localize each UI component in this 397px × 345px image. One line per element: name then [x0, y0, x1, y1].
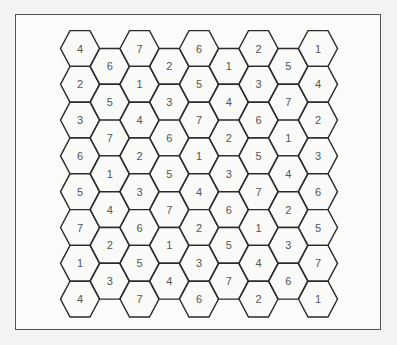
hex-grid: 4236571465714237142365723657146571423614… [0, 0, 397, 345]
hex-number: 4 [77, 293, 83, 305]
hex-number: 1 [226, 60, 232, 72]
hex-number: 4 [315, 78, 321, 90]
hex-number: 1 [315, 43, 321, 55]
hex-number: 5 [315, 222, 321, 234]
hex-number: 5 [226, 239, 232, 251]
hex-number: 7 [107, 132, 113, 144]
hex-number: 5 [285, 60, 291, 72]
hex-number: 4 [196, 186, 202, 198]
hex-number: 7 [136, 293, 142, 305]
hex-number: 2 [136, 150, 142, 162]
hex-number: 2 [226, 132, 232, 144]
hex-number: 6 [255, 114, 261, 126]
hex-number: 6 [285, 275, 291, 287]
hex-number: 1 [315, 293, 321, 305]
hex-number: 7 [226, 275, 232, 287]
hex-number: 4 [107, 204, 113, 216]
hex-number: 7 [77, 222, 83, 234]
hex-number: 3 [315, 150, 321, 162]
hex-number: 2 [255, 293, 261, 305]
hex-number: 2 [166, 60, 172, 72]
hex-number: 7 [255, 186, 261, 198]
hex-number: 1 [136, 78, 142, 90]
hex-number: 2 [255, 43, 261, 55]
hex-number: 5 [107, 96, 113, 108]
hex-number: 5 [196, 78, 202, 90]
hex-number: 1 [196, 150, 202, 162]
hex-number: 1 [285, 132, 291, 144]
hex-number: 3 [255, 78, 261, 90]
hex-number: 4 [226, 96, 232, 108]
hex-number: 4 [166, 275, 172, 287]
hex-number: 2 [196, 222, 202, 234]
hex-number: 6 [226, 204, 232, 216]
hex-number: 3 [285, 239, 291, 251]
hex-number: 4 [255, 257, 261, 269]
hex-number: 3 [107, 275, 113, 287]
hex-number: 6 [166, 132, 172, 144]
hex-number: 3 [166, 96, 172, 108]
hex-number: 1 [77, 257, 83, 269]
hex-number: 7 [196, 114, 202, 126]
hex-number: 1 [255, 222, 261, 234]
hex-number: 3 [226, 168, 232, 180]
hex-number: 5 [77, 186, 83, 198]
hex-number: 6 [196, 293, 202, 305]
hex-number: 6 [315, 186, 321, 198]
hex-number: 7 [166, 204, 172, 216]
hex-number: 1 [166, 239, 172, 251]
hex-number: 2 [315, 114, 321, 126]
hex-number: 2 [107, 239, 113, 251]
hex-number: 7 [285, 96, 291, 108]
hex-number: 7 [315, 257, 321, 269]
hex-number: 4 [285, 168, 291, 180]
hex-number: 2 [285, 204, 291, 216]
hex-number: 6 [196, 43, 202, 55]
hex-number: 4 [136, 114, 142, 126]
hex-number: 6 [77, 150, 83, 162]
hex-number: 1 [107, 168, 113, 180]
hex-number: 5 [255, 150, 261, 162]
hex-number: 3 [77, 114, 83, 126]
hex-number: 6 [136, 222, 142, 234]
hex-number: 6 [107, 60, 113, 72]
hex-number: 4 [77, 43, 83, 55]
hex-number: 5 [136, 257, 142, 269]
hex-number: 2 [77, 78, 83, 90]
hex-number: 5 [166, 168, 172, 180]
hex-number: 7 [136, 43, 142, 55]
hex-number: 3 [196, 257, 202, 269]
hex-number: 3 [136, 186, 142, 198]
